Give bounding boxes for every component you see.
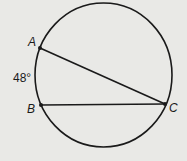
arc-measure-label: 48° bbox=[13, 71, 31, 85]
label-b: B bbox=[27, 102, 35, 116]
point-c bbox=[163, 102, 167, 106]
chord-bc bbox=[41, 104, 165, 105]
chord-ac bbox=[40, 48, 165, 104]
label-a: A bbox=[27, 35, 36, 49]
circle-diagram: A B C 48° bbox=[0, 0, 187, 161]
point-a bbox=[38, 46, 42, 50]
point-b bbox=[39, 103, 43, 107]
circle bbox=[35, 3, 172, 147]
label-c: C bbox=[169, 101, 178, 115]
